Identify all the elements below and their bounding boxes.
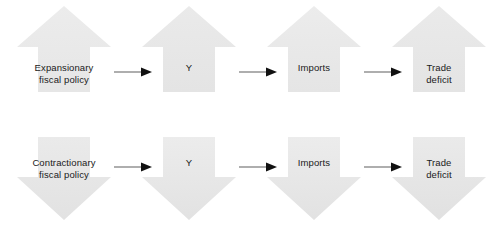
step-imports: Imports (262, 115, 366, 230)
step-label: Imports (262, 62, 366, 74)
step-label: Contractionary fiscal policy (4, 157, 124, 180)
step-label: Trade deficit (387, 157, 491, 180)
arrow-up-block-icon (137, 0, 241, 115)
arrow-up-block-icon (387, 0, 491, 115)
step-label: Trade deficit (387, 62, 491, 85)
arrow-down-block-icon (262, 115, 366, 230)
step-output-y: Y (137, 0, 241, 115)
expansionary-row: Expansionary fiscal policy Y (0, 0, 503, 115)
step-imports: Imports (262, 0, 366, 115)
step-expansionary-fiscal-policy: Expansionary fiscal policy (12, 0, 116, 115)
arrow-up-block-icon (262, 0, 366, 115)
step-label: Imports (262, 157, 366, 169)
step-contractionary-fiscal-policy: Contractionary fiscal policy (12, 115, 116, 230)
step-label: Expansionary fiscal policy (4, 62, 124, 85)
step-output-y: Y (137, 115, 241, 230)
step-label: Y (137, 157, 241, 169)
step-trade-deficit: Trade deficit (387, 0, 491, 115)
step-trade-deficit: Trade deficit (387, 115, 491, 230)
fiscal-policy-flow-diagram: Expansionary fiscal policy Y (0, 0, 503, 230)
contractionary-row: Contractionary fiscal policy Y (0, 115, 503, 230)
arrow-down-block-icon (137, 115, 241, 230)
step-label: Y (137, 62, 241, 74)
arrow-up-block-icon (12, 0, 116, 115)
